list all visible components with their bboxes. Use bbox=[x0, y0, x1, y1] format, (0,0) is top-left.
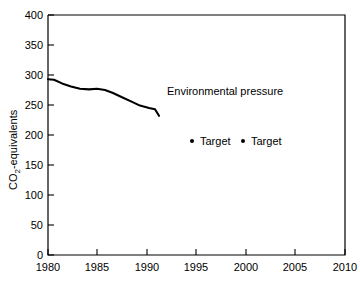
x-tick-label-2000: 2000 bbox=[234, 261, 258, 273]
y-tick-label-300: 300 bbox=[25, 69, 43, 81]
y-axis-title-rest: -equivalents bbox=[7, 109, 19, 169]
y-tick-label-250: 250 bbox=[25, 99, 43, 111]
target-label-2000: Target bbox=[251, 135, 282, 147]
y-tick-label-200: 200 bbox=[25, 129, 43, 141]
x-tick-label-1985: 1985 bbox=[85, 261, 109, 273]
x-tick-label-2010: 2010 bbox=[333, 261, 357, 273]
y-tick-label-50: 50 bbox=[31, 219, 43, 231]
chart-container: 0 50 100 150 200 250 300 350 400 1980 19… bbox=[0, 0, 360, 290]
target-point-1995 bbox=[190, 139, 194, 143]
y-tick-label-350: 350 bbox=[25, 39, 43, 51]
target-point-2000 bbox=[241, 139, 245, 143]
y-tick-label-100: 100 bbox=[25, 189, 43, 201]
chart-background bbox=[0, 0, 360, 290]
co2-equivalents-line-chart: 0 50 100 150 200 250 300 350 400 1980 19… bbox=[0, 0, 360, 290]
y-tick-label-400: 400 bbox=[25, 9, 43, 21]
x-tick-label-1980: 1980 bbox=[36, 261, 60, 273]
y-tick-label-0: 0 bbox=[37, 249, 43, 261]
environmental-pressure-label: Environmental pressure bbox=[167, 85, 283, 97]
x-tick-label-2005: 2005 bbox=[283, 261, 307, 273]
x-tick-label-1995: 1995 bbox=[184, 261, 208, 273]
x-tick-label-1990: 1990 bbox=[135, 261, 159, 273]
target-label-1995: Target bbox=[200, 135, 231, 147]
y-axis-title-main: CO bbox=[7, 173, 19, 190]
y-tick-label-150: 150 bbox=[25, 159, 43, 171]
